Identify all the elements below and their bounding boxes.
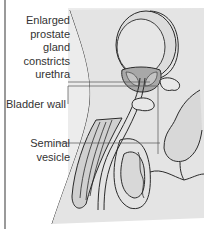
prostate-label-line-4: constricts bbox=[0, 55, 70, 69]
prostate-label-line-3: gland bbox=[0, 41, 70, 55]
prostate-label: Enlarged prostate gland constricts ureth… bbox=[0, 14, 70, 82]
bladder-wall-label: Bladder wall bbox=[6, 98, 70, 112]
prostate-label-line-5: urethra bbox=[0, 68, 70, 82]
seminal-vesicle-label-line-1: Seminal bbox=[10, 137, 70, 151]
prostate-label-line-1: Enlarged bbox=[0, 14, 70, 28]
prostate-label-line-2: prostate bbox=[0, 28, 70, 42]
seminal-vesicle-label-line-2: vesicle bbox=[10, 151, 70, 165]
seminal-vesicle-label: Seminal vesicle bbox=[10, 137, 70, 164]
